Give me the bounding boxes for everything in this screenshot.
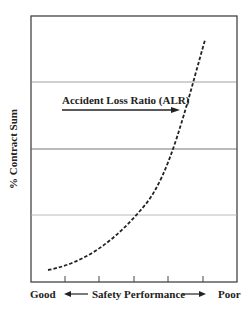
arrow-head-icon <box>171 107 180 113</box>
x-left-label: Good <box>30 288 56 300</box>
x-ticks <box>65 276 203 282</box>
left-arrow-head-icon <box>64 291 71 297</box>
alr-curve <box>48 40 205 270</box>
x-right-label: Poor <box>218 288 241 300</box>
annotation-label: Accident Loss Ratio (ALR) <box>62 94 190 107</box>
x-axis-label: Safety Performance <box>92 288 185 300</box>
y-axis-label: % Contract Sum <box>7 109 19 189</box>
right-arrow-head-icon <box>199 291 206 297</box>
chart-canvas: Accident Loss Ratio (ALR) % Contract Sum… <box>0 0 250 313</box>
